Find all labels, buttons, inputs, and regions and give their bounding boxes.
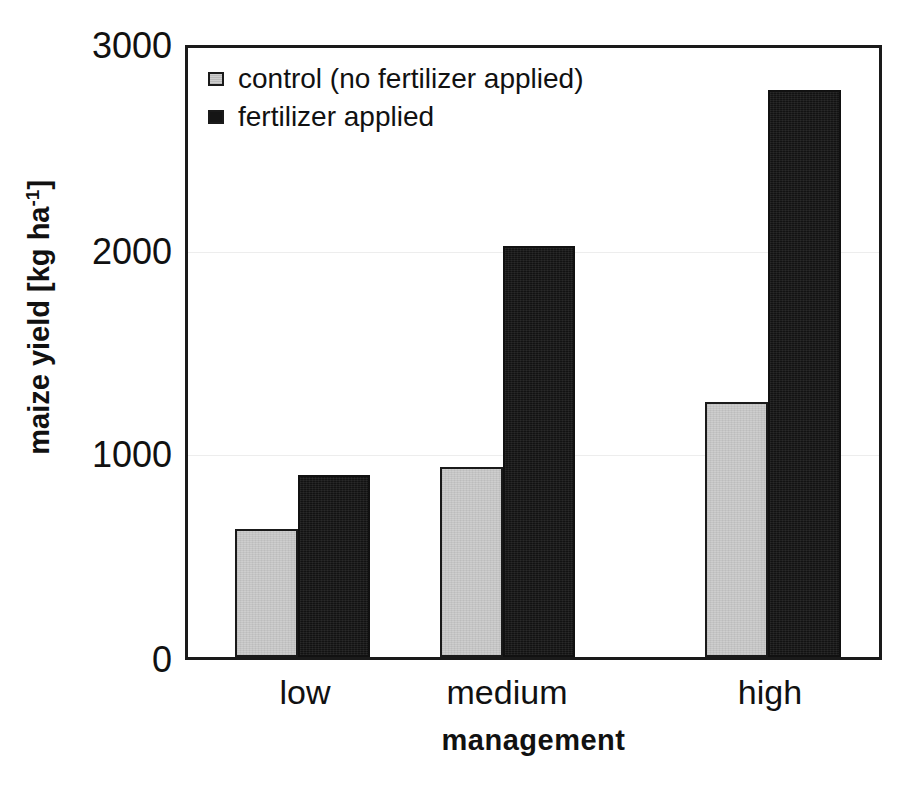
- x-tick-label-low: low: [195, 672, 415, 712]
- plot-frame: control (no fertilizer applied) fertiliz…: [185, 45, 882, 660]
- legend-item-control: control (no fertilizer applied): [208, 60, 728, 98]
- x-tick-label-high: high: [660, 672, 880, 712]
- chart-legend: control (no fertilizer applied) fertiliz…: [208, 60, 728, 136]
- y-axis-title: maize yield [kg ha-1]: [22, 82, 57, 552]
- legend-item-fertilizer: fertilizer applied: [208, 98, 728, 136]
- plot-area: control (no fertilizer applied) fertiliz…: [188, 48, 879, 657]
- y-axis-title-main: maize yield [kg ha: [23, 207, 55, 455]
- legend-label-control: control (no fertilizer applied): [238, 64, 584, 94]
- x-axis-ticks: low medium high: [185, 672, 882, 718]
- bar-medium-control: [440, 467, 503, 657]
- legend-swatch-control-icon: [208, 72, 224, 86]
- bar-high-control: [705, 402, 768, 657]
- bar-low-fertilizer: [298, 475, 370, 657]
- bar-low-control: [235, 529, 298, 657]
- bar-medium-fertilizer: [503, 246, 575, 657]
- legend-swatch-fertilizer-icon: [208, 110, 224, 124]
- y-tick-label-0: 0: [12, 642, 172, 678]
- bar-high-fertilizer: [768, 90, 841, 657]
- y-tick-label-3000: 3000: [12, 28, 172, 64]
- x-axis-title: management: [185, 724, 882, 757]
- x-tick-label-medium: medium: [397, 672, 617, 712]
- legend-label-fertilizer: fertilizer applied: [238, 102, 434, 132]
- chart-figure: 3000 2000 1000 0 maize yield [kg ha-1]: [0, 0, 910, 796]
- y-axis-title-exponent: -1: [22, 190, 43, 207]
- y-axis-title-tail: ]: [23, 180, 55, 190]
